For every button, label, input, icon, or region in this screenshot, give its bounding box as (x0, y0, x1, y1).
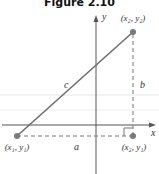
horizontal-leg-label: a (74, 141, 79, 152)
point-x2-y2 (130, 29, 136, 35)
diagram-canvas: y x (x₂, y₂) (x₁, y₁) (x₂, y₁) c b a (0, 0, 159, 174)
point-x2-y1 (130, 133, 136, 139)
distance-formula-figure: Figure 2.10 y x (x₂, y₂) (x₁, y₁) (0, 0, 159, 174)
hypotenuse-label: c (64, 79, 69, 90)
point-x1-y1 (14, 133, 20, 139)
point-corner-label: (x₂, y₁) (122, 142, 147, 152)
point-top-label: (x₂, y₂) (121, 13, 146, 23)
point-left-label: (x₁, y₁) (5, 142, 30, 152)
x-axis-label: x (150, 127, 156, 138)
arrow-up-icon (94, 15, 99, 22)
vertical-leg-label: b (140, 79, 145, 90)
y-axis-label: y (101, 11, 107, 22)
hypotenuse-line (17, 32, 133, 136)
